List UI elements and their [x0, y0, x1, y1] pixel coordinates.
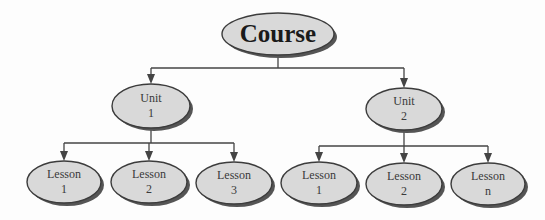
arrowhead-icon [400, 78, 408, 88]
node-unit-2-ellipse [366, 88, 442, 130]
node-unit-1-lesson-3-ellipse [196, 162, 272, 204]
arrowhead-icon [147, 74, 155, 84]
arrowhead-icon [145, 151, 153, 161]
arrowhead-icon [60, 151, 68, 161]
node-course-ellipse [222, 13, 334, 55]
node-unit-1-lesson-1-ellipse [27, 161, 101, 203]
node-unit-2-lesson-1-ellipse [281, 162, 357, 204]
arrowhead-icon [315, 152, 323, 162]
arrowhead-icon [484, 153, 492, 163]
arrowhead-icon [400, 153, 408, 163]
course-hierarchy-diagram: Course Unit 1 Unit 2 Lesson 1 Lesson 2 L… [0, 0, 545, 220]
node-unit-2-lesson-3-ellipse [451, 163, 525, 205]
node-unit-1-ellipse [112, 84, 190, 128]
node-unit-2-lesson-2-ellipse [366, 163, 442, 205]
node-unit-1-lesson-2-ellipse [111, 161, 187, 203]
connectors-layer [0, 0, 545, 220]
arrowhead-icon [230, 152, 238, 162]
